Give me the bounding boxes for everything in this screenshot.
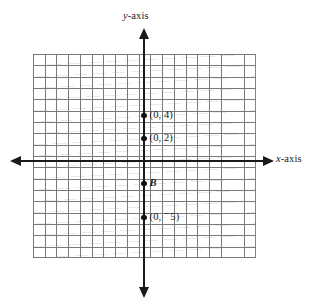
y-axis-line [143,37,145,289]
y-axis-label-suffix: -axis [128,10,149,21]
x-axis-arrow-right-icon [263,156,274,166]
y-axis-label: y-axis [123,10,149,21]
x-axis-label: x-axis [276,153,302,164]
data-point-label: (0, 4) [150,109,173,120]
data-point-label: (0, 2) [150,132,173,143]
data-point-label: B [150,177,157,188]
data-point-label: (0, −5) [150,211,180,222]
x-axis-label-suffix: -axis [281,153,302,164]
data-point [141,136,146,141]
x-axis-arrow-left-icon [10,156,21,166]
y-axis-arrow-down-icon [139,287,149,298]
coordinate-plane-figure: y-axis x-axis (0, 4)(0, 2)B(0, −5) [0,0,316,308]
raised-negative-sign: − [164,208,170,219]
y-axis-arrow-up-icon [139,28,149,39]
x-axis-line [20,160,264,162]
